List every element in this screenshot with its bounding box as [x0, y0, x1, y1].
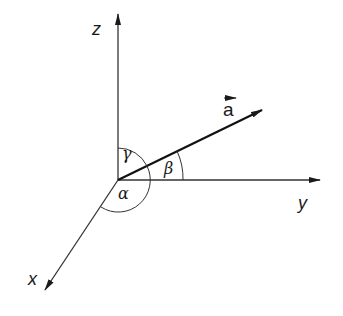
beta-arc	[177, 151, 183, 180]
x-axis-label: x	[28, 270, 37, 288]
y-axis-label: y	[298, 194, 307, 212]
vector-a-label: a	[223, 100, 234, 119]
z-axis-label: z	[92, 20, 101, 38]
axes-figure	[0, 0, 343, 316]
gamma-label: γ	[122, 146, 132, 162]
diagram-canvas: z y x a γ β α	[0, 0, 343, 316]
vector-a	[118, 110, 262, 180]
alpha-label: α	[118, 186, 129, 202]
beta-label: β	[164, 161, 173, 177]
x-axis	[45, 180, 118, 290]
